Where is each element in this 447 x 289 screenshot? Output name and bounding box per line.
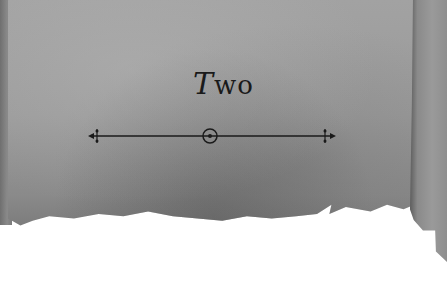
parchment-sheet — [8, 0, 420, 230]
chapter-title: Two — [0, 66, 447, 101]
chapter-title-rest: wo — [214, 70, 254, 100]
scroll-right-roll — [410, 0, 447, 262]
parchment-scroll: Two — [0, 0, 447, 289]
ornamental-divider-icon — [88, 126, 336, 146]
chapter-title-initial: T — [193, 66, 214, 101]
